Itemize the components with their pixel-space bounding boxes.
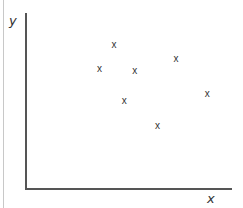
left-border xyxy=(3,0,4,208)
data-point: x xyxy=(112,40,117,50)
x-axis xyxy=(25,188,232,190)
data-point: x xyxy=(174,54,179,64)
data-point: x xyxy=(155,121,160,131)
chart-frame: y x xxxxxxx xyxy=(0,0,243,208)
data-point: x xyxy=(122,96,127,106)
data-point: x xyxy=(97,64,102,74)
data-point: x xyxy=(132,66,137,76)
y-axis xyxy=(25,13,27,190)
data-point: x xyxy=(205,89,210,99)
x-axis-label: x xyxy=(207,191,215,206)
y-axis-label: y xyxy=(9,13,17,28)
